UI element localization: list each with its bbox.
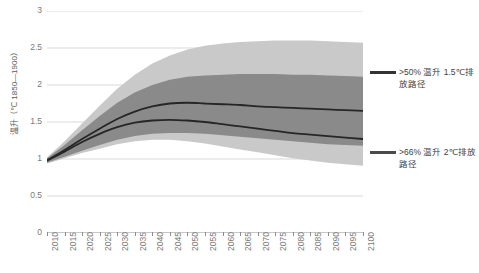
x-tick-label: 2090 (332, 232, 341, 272)
legend-label-1p5c: >50% 温升 1.5℃排放路径 (399, 66, 479, 90)
plot-area (47, 11, 363, 233)
x-tick-mark (135, 232, 136, 236)
x-tick-label: 2085 (314, 232, 323, 272)
y-tick-label: 0 (18, 228, 42, 237)
legend-swatch-2c (370, 151, 396, 154)
x-tick-label: 2045 (174, 232, 183, 272)
x-tick-label: 2035 (139, 232, 148, 272)
x-tick-mark (117, 232, 118, 236)
x-tick-label: 2040 (156, 232, 165, 272)
y-tick-label: 3 (18, 6, 42, 15)
legend-label-2c: >66% 温升 2℃排放路径 (399, 146, 479, 170)
x-tick-mark (170, 232, 171, 236)
x-tick-mark (65, 232, 66, 236)
x-tick-mark (82, 232, 83, 236)
y-axis-title: 温升（℃ 1850—1900） (8, 27, 19, 157)
y-tick-label: 2.5 (18, 43, 42, 52)
y-tick-label: 0.5 (18, 191, 42, 200)
x-tick-label: 2025 (104, 232, 113, 272)
x-tick-label: 2080 (297, 232, 306, 272)
y-axis-tick-labels: 00.511.522.53 (18, 0, 42, 273)
x-axis-tick-labels: 2010201520202025203020352040204520502055… (47, 236, 363, 273)
x-tick-mark (275, 232, 276, 236)
y-tick-label: 1 (18, 154, 42, 163)
x-tick-label: 2030 (121, 232, 130, 272)
x-tick-label: 2065 (244, 232, 253, 272)
x-tick-mark (258, 232, 259, 236)
x-tick-mark (240, 232, 241, 236)
x-tick-label: 2070 (262, 232, 271, 272)
x-tick-label: 2075 (279, 232, 288, 272)
x-tick-mark (310, 232, 311, 236)
x-tick-mark (100, 232, 101, 236)
x-tick-mark (363, 232, 364, 236)
x-tick-mark (223, 232, 224, 236)
chart-legend: >50% 温升 1.5℃排放路径 >66% 温升 2℃排放路径 (370, 0, 479, 273)
x-tick-mark (47, 232, 48, 236)
x-tick-mark (293, 232, 294, 236)
x-tick-mark (152, 232, 153, 236)
x-tick-mark (345, 232, 346, 236)
legend-swatch-1p5c (370, 71, 396, 74)
x-tick-label: 2020 (86, 232, 95, 272)
x-tick-mark (205, 232, 206, 236)
x-tick-label: 2015 (69, 232, 78, 272)
chart-root: 温升（℃ 1850—1900） 00.511.522.53 2010201520… (0, 0, 479, 273)
y-tick-label: 1.5 (18, 117, 42, 126)
y-tick-label: 2 (18, 80, 42, 89)
x-tick-label: 2060 (227, 232, 236, 272)
x-tick-label: 2050 (191, 232, 200, 272)
x-tick-label: 2010 (51, 232, 60, 272)
chart-canvas (47, 11, 363, 233)
x-tick-label: 2095 (349, 232, 358, 272)
x-tick-label: 2055 (209, 232, 218, 272)
x-tick-mark (328, 232, 329, 236)
x-tick-mark (187, 232, 188, 236)
